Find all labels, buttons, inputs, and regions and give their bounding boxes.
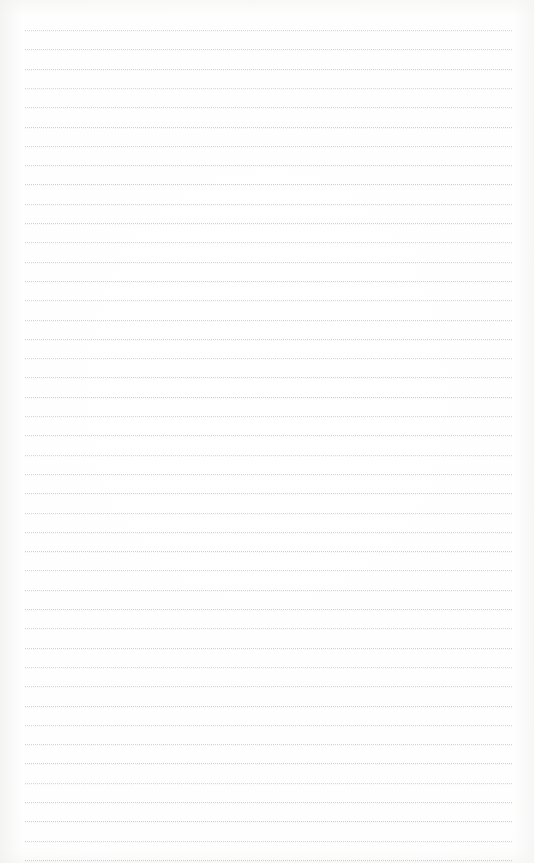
scanned-page bbox=[0, 0, 534, 863]
page-text-content bbox=[0, 0, 534, 863]
